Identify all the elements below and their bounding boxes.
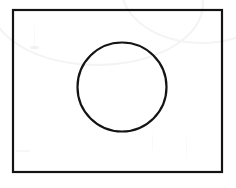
- line-drawing-svg: [0, 0, 236, 188]
- figure-canvas: Circle inscribed in rectangle: [0, 0, 236, 188]
- circle-outline: [78, 43, 167, 132]
- rectangle-outline: [13, 10, 222, 172]
